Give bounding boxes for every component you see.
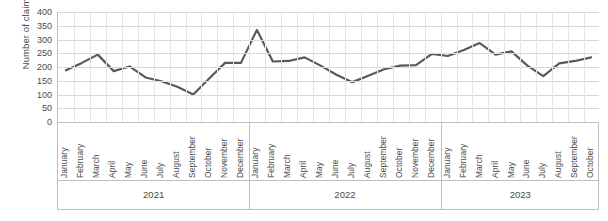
x-axis-month-label: June (139, 159, 149, 178)
x-axis-month-labels: JanuaryFebruaryMarchAprilMayJuneJulyAugu… (57, 122, 599, 180)
gridline-vertical (361, 12, 362, 122)
gridline-vertical (138, 12, 139, 122)
gridline-vertical (345, 12, 346, 122)
y-axis-tick-label: 350 (37, 21, 52, 31)
x-axis-year-label: 2023 (441, 189, 600, 200)
x-axis-month-label: September (378, 136, 388, 178)
gridline-vertical (488, 12, 489, 122)
x-axis-month-label: June (521, 159, 531, 178)
line-chart: Number of claims 40035030025020015010050… (0, 0, 608, 221)
x-axis-month-label: May (314, 162, 324, 178)
gridline-vertical (425, 12, 426, 122)
y-axis-tick-label: 250 (37, 48, 52, 58)
x-axis-month-label: April (298, 161, 308, 178)
x-axis-month-label: October (585, 148, 595, 179)
y-axis-tick-label: 100 (37, 90, 52, 100)
gridline-vertical (281, 12, 282, 122)
gridline-vertical (584, 12, 585, 122)
y-axis-tick-label: 50 (42, 103, 52, 113)
y-axis-tick-label: 300 (37, 35, 52, 45)
plot-area (57, 12, 599, 122)
x-axis-month-label: September (569, 136, 579, 178)
x-axis-month-label: May (123, 162, 133, 178)
x-axis-month-label: October (394, 148, 404, 179)
gridline-vertical (393, 12, 394, 122)
gridline-vertical (186, 12, 187, 122)
x-axis-month-label: October (203, 148, 213, 179)
x-axis-month-label: March (474, 154, 484, 178)
x-axis-month-label: December (426, 139, 436, 178)
y-axis-tick-labels: 400350300250200150100500 (26, 12, 52, 122)
y-axis-tick-label: 0 (47, 117, 52, 127)
gridline-vertical (74, 12, 75, 122)
gridline-vertical (504, 12, 505, 122)
x-axis-month-label: February (458, 144, 468, 178)
x-axis-month-label: September (187, 136, 197, 178)
x-axis-year-labels: 202120222023 (57, 180, 599, 210)
y-axis-tick-label: 400 (37, 7, 52, 17)
x-axis-month-label: January (59, 148, 69, 179)
x-axis-month-label: May (506, 162, 516, 178)
gridline-vertical (409, 12, 410, 122)
x-axis-month-label: April (490, 161, 500, 178)
x-axis-month-label: March (91, 154, 101, 178)
x-axis-month-label: July (346, 163, 356, 178)
y-axis-tick-label: 150 (37, 76, 52, 86)
x-axis-month-label: August (362, 151, 372, 178)
x-axis-month-label: November (219, 139, 229, 178)
gridline-vertical (154, 12, 155, 122)
gridline-vertical (122, 12, 123, 122)
gridline-vertical (377, 12, 378, 122)
x-axis-month-label: March (282, 154, 292, 178)
x-axis-month-label: February (75, 144, 85, 178)
x-axis-month-label: August (171, 151, 181, 178)
y-axis-tick-label: 200 (37, 62, 52, 72)
x-axis-month-label: November (410, 139, 420, 178)
x-axis-year-label: 2022 (249, 189, 440, 200)
gridline-vertical (90, 12, 91, 122)
gridline-vertical (106, 12, 107, 122)
gridline-vertical (313, 12, 314, 122)
x-axis-month-label: August (553, 151, 563, 178)
gridline-vertical (249, 12, 250, 122)
gridline-vertical (217, 12, 218, 122)
gridline-vertical (520, 12, 521, 122)
x-axis-year-label: 2021 (58, 189, 249, 200)
gridline-vertical (441, 12, 442, 122)
gridline-vertical (552, 12, 553, 122)
x-axis-month-label: January (442, 148, 452, 179)
gridline-vertical (170, 12, 171, 122)
gridline-vertical (265, 12, 266, 122)
x-axis-month-label: July (155, 163, 165, 178)
gridline-vertical (568, 12, 569, 122)
gridline-vertical (297, 12, 298, 122)
gridline-vertical (233, 12, 234, 122)
x-axis-month-label: January (250, 148, 260, 179)
gridline-vertical (201, 12, 202, 122)
gridline-vertical (457, 12, 458, 122)
x-axis-month-label: February (266, 144, 276, 178)
gridline-vertical (329, 12, 330, 122)
gridline-vertical (472, 12, 473, 122)
x-axis-month-label: July (537, 163, 547, 178)
x-axis-month-label: April (107, 161, 117, 178)
x-axis-month-label: December (235, 139, 245, 178)
gridline-vertical (536, 12, 537, 122)
x-axis-month-label: June (330, 159, 340, 178)
